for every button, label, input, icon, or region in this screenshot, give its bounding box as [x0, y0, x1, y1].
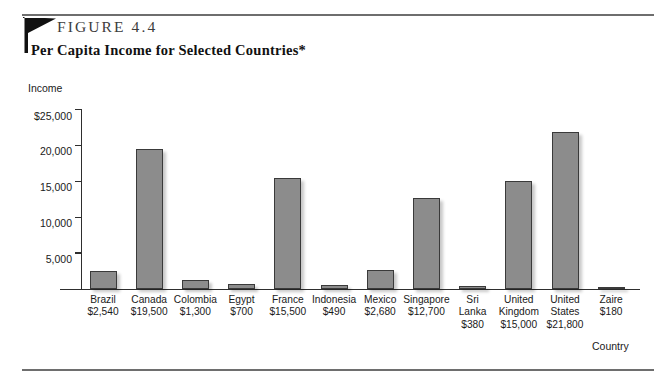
x-axis-category-value: $21,800	[535, 319, 595, 331]
x-axis-title: Country	[592, 340, 629, 352]
bar	[598, 287, 625, 289]
bar	[552, 132, 579, 289]
x-axis-category-name: Zaire	[581, 294, 641, 306]
bar-chart: Income 5,00010,00015,00020,000$25,000 Br…	[0, 0, 666, 379]
bar	[459, 286, 486, 289]
bar	[228, 284, 255, 289]
bar	[413, 198, 440, 289]
x-axis-category-value: $180	[581, 306, 641, 318]
bar	[367, 270, 394, 289]
bar	[321, 285, 348, 289]
bar	[274, 178, 301, 289]
bar	[505, 181, 532, 289]
figure-bottom-rule	[22, 369, 654, 371]
bar	[182, 280, 209, 289]
x-axis-category: Zaire$180	[581, 294, 641, 319]
bar	[136, 149, 163, 289]
bar	[90, 271, 117, 289]
